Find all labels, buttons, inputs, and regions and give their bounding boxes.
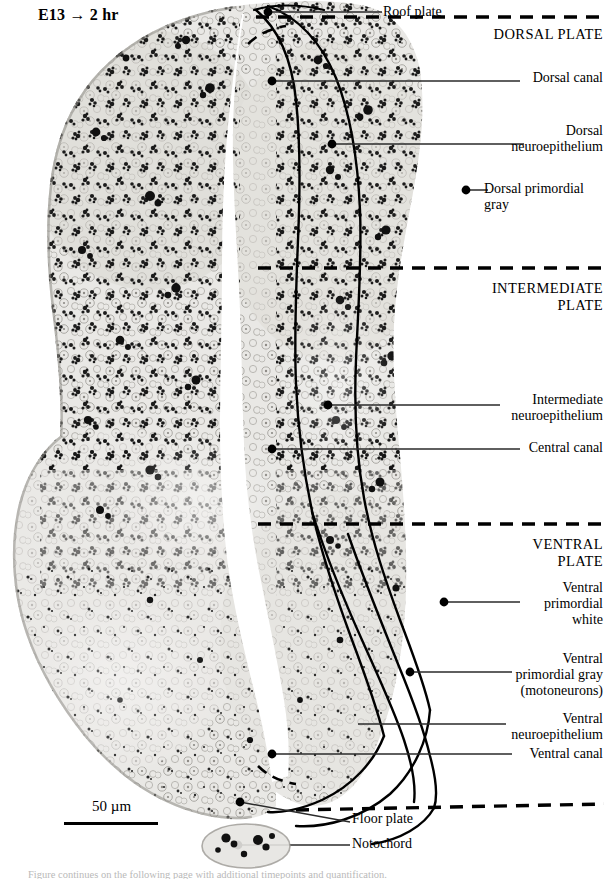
annotation-intermediate-neuroepithelium: Intermediate neuroepithelium <box>511 392 603 424</box>
dot-floor-plate <box>236 798 245 807</box>
annotation-ventral-primordial-white: Ventral primordial white <box>544 580 603 629</box>
annotation-dorsal-neuroepithelium: Dorsal neuroepithelium <box>511 123 603 155</box>
dot-central-canal <box>268 445 277 454</box>
annotation-roof-plate: Roof plate <box>383 4 442 20</box>
divider-floor <box>296 804 604 810</box>
notochord-structure <box>202 824 290 868</box>
page-title: E13 → 2 hr <box>38 6 119 24</box>
annotation-ventral-neuroepithelium: Ventral neuroepithelium <box>511 711 603 743</box>
dot-intermediate-neuroepithelium <box>324 401 333 410</box>
annotation-notochord: Notochord <box>352 836 412 852</box>
dot-ventral-canal <box>268 750 277 759</box>
annotation-dorsal-primordial-gray: Dorsal primordial gray <box>484 181 584 213</box>
caption-fragment: Figure continues on the following page w… <box>28 869 588 879</box>
plate-label-ventral: VENTRAL PLATE <box>533 536 603 570</box>
scale-bar-rule <box>64 822 158 825</box>
scale-bar-label: 50 µm <box>92 798 131 815</box>
dot-roof-plate <box>264 8 273 17</box>
figure-container: E13 → 2 hr DORSAL PLATE INTERMEDIATE PLA… <box>0 0 609 879</box>
annotation-ventral-canal: Ventral canal <box>530 746 603 762</box>
dot-dorsal-canal <box>268 77 277 86</box>
annotation-central-canal: Central canal <box>529 440 603 456</box>
annotation-ventral-primordial-gray: Ventral primordial gray (motoneurons) <box>516 651 603 700</box>
dot-dorsal-neuroepithelium <box>328 140 337 149</box>
plate-label-intermediate: INTERMEDIATE PLATE <box>492 280 603 314</box>
dot-ventral-primordial-gray <box>406 668 415 677</box>
dot-dorsal-primordial-gray <box>462 186 471 195</box>
annotation-dorsal-canal: Dorsal canal <box>533 70 603 86</box>
plate-label-dorsal: DORSAL PLATE <box>494 26 603 43</box>
annotation-floor-plate: Floor plate <box>352 811 413 827</box>
dot-ventral-primordial-white <box>440 598 449 607</box>
